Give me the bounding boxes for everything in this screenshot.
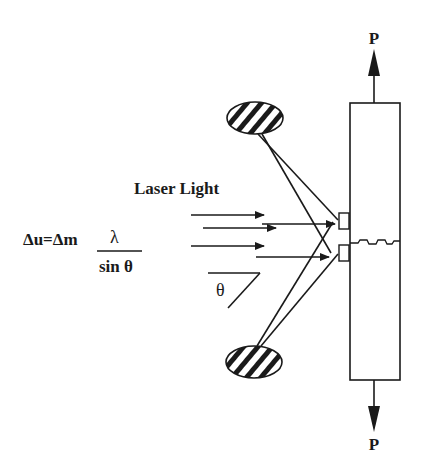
formula-lhs: Δu=Δm: [23, 230, 78, 249]
gauge-pad-lower: [339, 245, 349, 261]
detector-top: [227, 102, 283, 134]
gauge-pad-upper: [339, 213, 349, 229]
load-arrow-bottom: P: [368, 380, 380, 454]
diffracted-beams-bottom: [257, 222, 338, 346]
formula-denominator: sin θ: [99, 257, 133, 276]
detector-bottom: [226, 346, 282, 378]
formula-numerator: λ: [110, 227, 119, 247]
angle-label: θ: [216, 280, 225, 300]
specimen: [350, 103, 400, 380]
load-label-top: P: [369, 29, 379, 48]
diffracted-beams-top: [258, 134, 338, 253]
diagram-canvas: P P Laser Light Δu=Δm λ: [0, 0, 426, 465]
load-arrow-top: P: [368, 29, 380, 103]
load-label-bottom: P: [369, 435, 379, 454]
formula: Δu=Δm λ sin θ: [23, 227, 142, 276]
laser-light-label: Laser Light: [134, 179, 220, 198]
angle-indicator: θ: [208, 273, 260, 308]
